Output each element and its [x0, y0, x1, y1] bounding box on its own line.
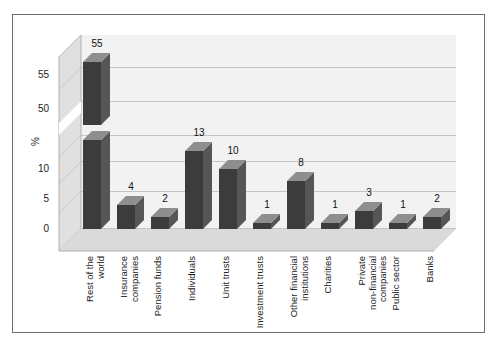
xtick-label-private-non-financial-companies: Private non-financial companies: [357, 256, 389, 345]
value-label-charities: 1: [320, 200, 350, 210]
xtick-label-other-financial-institutions: Other financial institutions: [289, 256, 310, 345]
value-label-unit-trusts: 10: [218, 146, 248, 156]
value-label-individuals: 13: [184, 128, 214, 138]
bar-insurance-companies[interactable]: [117, 196, 144, 229]
bar-rest-of-the-world[interactable]: [83, 53, 110, 229]
xtick-label-insurance-companies: Insurance companies: [119, 256, 140, 345]
value-label-other-financial-institutions: 8: [286, 158, 316, 168]
bar-chart: 55 50 10 5 0 % 55 4 2 13 10 1 8 1 3 1 2 …: [13, 15, 486, 334]
plot-floor: [59, 229, 456, 251]
value-label-public-sector: 1: [388, 200, 418, 210]
figure-frame: 55 50 10 5 0 % 55 4 2 13 10 1 8 1 3 1 2 …: [12, 14, 485, 333]
value-label-private-non-financial-companies: 3: [354, 188, 384, 198]
xtick-label-banks: Banks: [425, 256, 436, 345]
value-label-rest-of-the-world: 55: [82, 39, 112, 49]
xtick-label-investment-trusts: Investment trusts: [255, 256, 266, 345]
value-label-pension-funds: 2: [150, 194, 180, 204]
bar-other-financial-institutions[interactable]: [287, 172, 314, 229]
y-axis-title: %: [30, 137, 41, 146]
value-label-insurance-companies: 4: [116, 182, 146, 192]
ytick-label-0: 0: [15, 224, 49, 234]
bar-individuals[interactable]: [185, 142, 212, 229]
xtick-label-public-sector: Public sector: [391, 256, 402, 345]
plot-left-wall: [59, 35, 81, 251]
xtick-label-unit-trusts: Unit trusts: [221, 256, 232, 345]
value-label-investment-trusts: 1: [252, 200, 282, 210]
xtick-label-pension-funds: Pension funds: [153, 256, 164, 345]
xtick-label-rest-of-the-world: Rest of the world: [85, 256, 106, 345]
ytick-label-5: 5: [15, 194, 49, 204]
ytick-label-50: 50: [15, 104, 49, 114]
bar-unit-trusts[interactable]: [219, 160, 246, 229]
value-label-banks: 2: [422, 194, 452, 204]
ytick-label-55: 55: [15, 70, 49, 80]
xtick-label-charities: Charities: [323, 256, 334, 345]
xtick-label-individuals: Individuals: [187, 256, 198, 345]
ytick-label-10: 10: [15, 164, 49, 174]
